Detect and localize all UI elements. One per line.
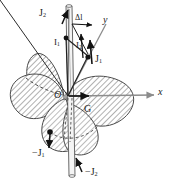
label-negative-J2: −J2 xyxy=(85,167,98,177)
angular-momentum-diagram: J2 Δl I1 I2 J1 y x O G −J1 −J2 xyxy=(0,0,173,183)
label-axis-y: y xyxy=(103,15,107,25)
label-axis-x: x xyxy=(158,87,162,97)
label-J1: J1 xyxy=(95,54,102,64)
J1-arrow xyxy=(90,40,92,64)
node-I1 xyxy=(64,36,69,41)
label-I1: I1 xyxy=(54,38,60,48)
label-centroid: G xyxy=(84,104,91,114)
label-origin: O xyxy=(54,90,61,100)
label-negative-J1: −J1 xyxy=(32,148,45,158)
label-delta-l: Δl xyxy=(75,14,82,22)
delta-l-arrow xyxy=(72,24,92,25)
label-I2: I2 xyxy=(76,41,82,51)
negative-J2-arrow xyxy=(76,158,82,172)
node-lower xyxy=(47,129,53,135)
negative-J1-arrow xyxy=(49,134,50,148)
diagram-canvas xyxy=(0,0,173,183)
node-upper xyxy=(85,54,90,59)
label-J2-top: J2 xyxy=(39,8,46,18)
